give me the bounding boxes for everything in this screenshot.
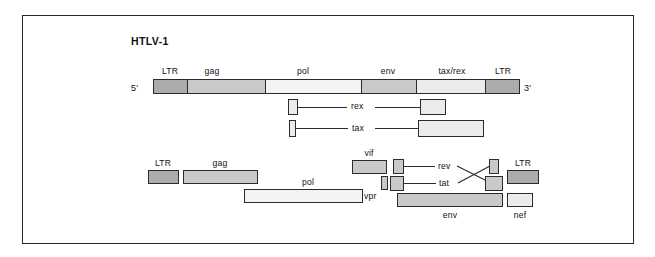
segment-label-ltr-right: LTR: [495, 67, 511, 76]
hiv-gene-nef: [507, 193, 533, 207]
rex-intron-line-right: [375, 107, 421, 108]
tax-exon-right: [418, 120, 484, 137]
segment-label-gag: gag: [205, 67, 220, 76]
rev-exon-right: [489, 159, 499, 174]
genome-segment-ltr-right: [485, 79, 520, 94]
tat-line-left: [403, 183, 436, 184]
hiv-label-vpr: vpr: [364, 192, 377, 201]
hiv-label-ltr-left: LTR: [155, 159, 171, 168]
genome-segment-gag: [187, 79, 266, 94]
five-prime-label: 5': [131, 84, 138, 93]
segment-label-tax-rex: tax/rex: [438, 67, 465, 76]
genome-segment-env: [361, 79, 417, 94]
hiv-label-ltr-right: LTR: [515, 159, 531, 168]
transcript-label-tax: tax: [352, 124, 364, 133]
hiv-gene-vif: [352, 160, 387, 174]
hiv-label-tat: tat: [439, 179, 449, 188]
genome-segment-pol: [265, 79, 362, 94]
hiv-gene-ltr-right: [507, 170, 539, 184]
hiv-label-pol: pol: [302, 178, 314, 187]
rex-intron-line-left: [297, 107, 347, 108]
tat-exon-left: [390, 176, 404, 191]
segment-label-env: env: [381, 67, 395, 76]
tat-exon-right: [485, 176, 503, 191]
genome-segment-tax-rex: [416, 79, 486, 94]
genome-diagram: HTLV-1 LTR gag pol env tax/rex LTR 5' 3'…: [0, 0, 655, 257]
segment-label-pol: pol: [297, 67, 309, 76]
hiv-gene-env: [397, 193, 503, 207]
hiv-gene-gag: [183, 170, 258, 184]
tax-intron-line-right: [375, 128, 419, 129]
hiv-gene-pol: [244, 189, 363, 203]
hiv-label-gag: gag: [213, 159, 228, 168]
transcript-label-rex: rex: [351, 102, 364, 111]
hiv-label-env: env: [443, 211, 457, 220]
hiv-gene-ltr-left: [148, 170, 179, 184]
hiv-gene-vpr: [381, 176, 388, 190]
rev-line-left: [403, 166, 435, 167]
rex-exon-right: [420, 99, 446, 115]
tax-intron-line-left: [295, 128, 348, 129]
panel-title-htlv1: HTLV-1: [131, 36, 169, 47]
hiv-label-vif: vif: [364, 149, 373, 158]
segment-label-ltr-left: LTR: [162, 67, 178, 76]
three-prime-label: 3': [524, 84, 531, 93]
hiv-label-nef: nef: [514, 211, 527, 220]
hiv-label-rev: rev: [438, 162, 451, 171]
genome-segment-ltr-left: [153, 79, 188, 94]
